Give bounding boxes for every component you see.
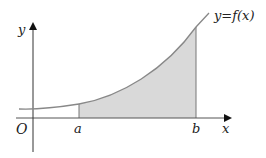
curve-label: y=f(x) (213, 8, 255, 23)
lower-bound-label: a (74, 121, 82, 136)
shaded-area (79, 27, 196, 118)
x-axis-label: x (222, 121, 230, 136)
integral-diagram: y=f(x) y x O a b (0, 0, 266, 158)
y-axis-label: y (17, 22, 26, 37)
origin-label: O (16, 121, 28, 137)
upper-bound-label: b (192, 121, 200, 136)
